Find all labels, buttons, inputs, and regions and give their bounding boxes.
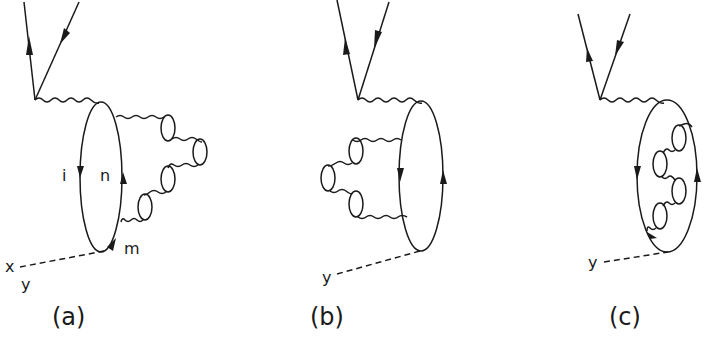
panel-b: y (b) bbox=[310, 0, 447, 331]
arrow-up-icon bbox=[440, 170, 447, 184]
caption-c: (c) bbox=[609, 303, 641, 331]
photon-rung bbox=[121, 219, 143, 223]
caption-b: (b) bbox=[310, 303, 344, 331]
scalar-line bbox=[604, 252, 668, 262]
arrow-down-icon bbox=[77, 166, 84, 178]
arrow-up-icon bbox=[586, 48, 593, 62]
photon-rung bbox=[330, 190, 352, 195]
loop-bubble bbox=[193, 139, 207, 165]
photon-rung bbox=[168, 164, 198, 169]
photon-rung bbox=[358, 216, 407, 219]
label-i: i bbox=[62, 166, 66, 185]
arrow-down-icon bbox=[634, 166, 641, 180]
label-m: m bbox=[124, 239, 140, 258]
arrow-down-icon bbox=[60, 28, 70, 44]
arrow-up-icon bbox=[343, 38, 350, 55]
loop-bubble bbox=[672, 125, 686, 151]
loop-bubble bbox=[138, 194, 152, 220]
arrow-up-icon bbox=[107, 238, 116, 251]
label-n: n bbox=[100, 166, 110, 185]
fermion-line-incoming bbox=[358, 2, 389, 100]
label-y: y bbox=[322, 268, 331, 287]
panel-a: i n m x y (a) bbox=[5, 2, 207, 331]
loop-bubble bbox=[161, 166, 175, 192]
label-x: x bbox=[5, 257, 14, 276]
photon-rung bbox=[663, 149, 675, 153]
fermion-line-incoming bbox=[35, 2, 79, 100]
label-y: y bbox=[21, 275, 30, 294]
arrow-up-icon bbox=[26, 36, 33, 55]
scalar-line bbox=[20, 251, 104, 267]
loop-bubble bbox=[161, 115, 175, 141]
loop-bubble bbox=[349, 191, 363, 217]
loop-bubble bbox=[672, 178, 686, 204]
arrow-down-icon bbox=[615, 40, 624, 56]
photon-rung bbox=[647, 227, 656, 231]
photon-rung bbox=[116, 116, 164, 119]
caption-a: (a) bbox=[52, 303, 85, 331]
label-y: y bbox=[588, 253, 597, 272]
loop-bubble bbox=[653, 203, 667, 229]
photon-rung bbox=[328, 162, 352, 167]
arrow-up-icon bbox=[120, 172, 127, 184]
fermion-loop bbox=[399, 101, 443, 251]
loop-bubble bbox=[653, 151, 667, 177]
arrow-down-icon bbox=[647, 232, 657, 239]
arrow-down-icon bbox=[397, 168, 404, 182]
panel-c: y (c) bbox=[578, 14, 701, 331]
photon-rung bbox=[662, 176, 675, 180]
fermion-line-incoming bbox=[600, 14, 630, 100]
photon-line bbox=[358, 98, 422, 103]
diagram-canvas: i n m x y (a) y (b) bbox=[0, 0, 712, 340]
photon-line bbox=[35, 98, 99, 103]
loop-bubble bbox=[321, 165, 335, 191]
arrow-up-icon bbox=[694, 168, 701, 182]
photon-line bbox=[600, 98, 664, 103]
arrow-down-icon bbox=[374, 30, 382, 49]
scalar-line bbox=[337, 251, 420, 274]
